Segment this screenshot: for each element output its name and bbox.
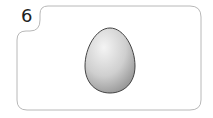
card-number: 6 [21, 6, 32, 26]
